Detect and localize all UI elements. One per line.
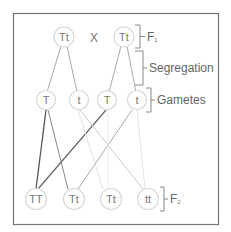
segregation-lines [47, 46, 136, 92]
f2-label: F2 [170, 192, 181, 206]
parent-row: Tt X Tt [54, 27, 134, 47]
fertilization-lines [36, 110, 145, 189]
offspring-label: Tt [69, 193, 79, 205]
parent-node: Tt [114, 27, 134, 47]
f1-label: F1 [147, 30, 158, 44]
gamete-label: t [135, 94, 138, 106]
gamete-label: T [43, 94, 50, 106]
segregation-label: Segregation [149, 61, 214, 75]
gametes-label: Gametes [157, 93, 206, 107]
parent-node: Tt [54, 27, 74, 47]
gamete-label: T [104, 94, 111, 106]
brackets [135, 25, 168, 211]
gamete-label: t [77, 94, 80, 106]
gamete-row: T t T t [37, 91, 147, 110]
offspring-label: TT [29, 193, 43, 205]
offspring-row: TT Tt Tt tt [26, 189, 159, 210]
f2-bracket [160, 187, 168, 211]
segregation-bracket [135, 51, 147, 85]
gametes-bracket [146, 88, 155, 112]
cross-symbol: X [90, 31, 98, 45]
parent-label: Tt [119, 31, 129, 43]
parent-label: Tt [59, 31, 69, 43]
f1-bracket [135, 25, 145, 48]
offspring-label: Tt [106, 193, 116, 205]
cross-diagram: Tt X Tt T t T t TT Tt Tt tt F1 Segrega [0, 0, 231, 232]
offspring-label: tt [145, 193, 151, 205]
